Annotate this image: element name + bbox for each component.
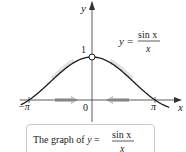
y-axis-label: y	[80, 2, 86, 14]
svg-text:=: =	[127, 35, 133, 47]
caption-denominator: x	[119, 143, 125, 152]
x-tick-label-0: 0	[83, 102, 88, 113]
y-tick-label-1: 1	[81, 44, 86, 55]
curve-highlight-1	[110, 61, 132, 79]
caption-prefix: The graph of	[33, 134, 87, 145]
annotation-numerator: sin x	[138, 29, 157, 40]
function-annotation: y = sin x x	[118, 29, 160, 54]
x-tick-label-neg-pi: −π	[18, 101, 31, 112]
open-point-hole	[89, 54, 95, 60]
x-tick-label-pi: π	[151, 101, 157, 112]
svg-text:y: y	[118, 35, 124, 47]
caption-eq: =	[92, 134, 101, 145]
x-axis-label: x	[177, 101, 183, 113]
annotation-var: y	[118, 35, 124, 47]
annotation-denominator: x	[145, 43, 151, 54]
curve-highlight-0	[52, 61, 74, 79]
y-axis-arrow-icon	[89, 1, 95, 10]
caption-box: The graph of y = sin x x	[26, 124, 155, 152]
caption-numerator: sin x	[112, 129, 131, 140]
svg-text:The graph of y =: The graph of y =	[33, 134, 100, 145]
